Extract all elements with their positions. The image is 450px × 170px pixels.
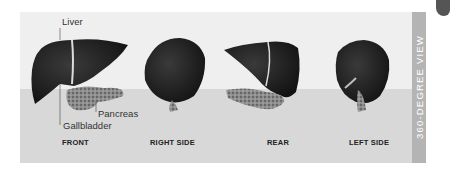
view-label-right-side: RIGHT SIDE — [150, 138, 195, 147]
pancreas-label: Pancreas — [98, 108, 138, 119]
view-label-rear: REAR — [267, 138, 289, 147]
liver-label: Liver — [62, 16, 83, 27]
rear-view-liver — [224, 42, 300, 110]
gallbladder-label: Gallbladder — [63, 120, 112, 131]
left-side-view-liver — [336, 40, 390, 112]
right-side-view-liver — [145, 38, 206, 112]
view-label-front: FRONT — [62, 138, 89, 147]
view-label-left-side: LEFT SIDE — [349, 138, 389, 147]
